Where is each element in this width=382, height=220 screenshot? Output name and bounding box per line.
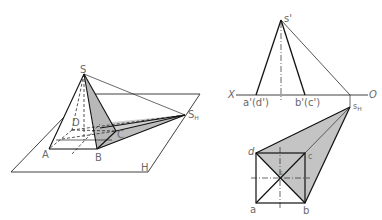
- label-h: H: [141, 163, 149, 173]
- label-a-prime-d-prime: a'(d'): [243, 98, 269, 108]
- left-3d-view: [11, 74, 200, 172]
- front-light-ray: [281, 20, 350, 95]
- label-s-h: SH: [188, 110, 199, 121]
- label-c: C: [117, 130, 124, 140]
- label-d-top: d: [248, 147, 254, 157]
- label-x: X: [228, 90, 235, 100]
- label-o: O: [369, 90, 377, 100]
- hidden-edges: [49, 74, 185, 154]
- front-view: [256, 20, 305, 95]
- label-s-h-top: sH: [353, 103, 362, 112]
- label-a: A: [42, 150, 49, 160]
- label-b-top: b: [303, 206, 309, 216]
- label-b: B: [95, 153, 102, 163]
- label-s-prime: s': [284, 14, 292, 24]
- label-a-top: a: [250, 205, 256, 215]
- label-c-top: c: [308, 153, 312, 161]
- right-ortho-view: [236, 20, 368, 210]
- label-s-h-sub: H: [194, 114, 199, 121]
- label-b-prime-c-prime: b'(c'): [295, 98, 320, 108]
- label-s: S: [80, 65, 86, 75]
- label-d: D: [72, 118, 80, 128]
- label-s-top: s: [279, 170, 283, 177]
- label-s-h-top-sub: H: [357, 105, 362, 112]
